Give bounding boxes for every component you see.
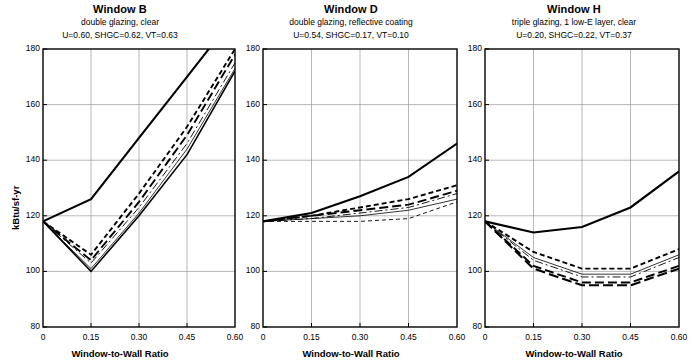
x-axis-title: Window-to-Wall Ratio: [240, 348, 462, 359]
y-tick-label: 140: [458, 154, 482, 164]
plot-area: [485, 49, 679, 327]
y-tick-label: 80: [16, 321, 40, 331]
panel-subtitle-glazing: triple glazing, 1 low-E layer, clear: [462, 17, 686, 27]
y-tick-label: 80: [458, 321, 482, 331]
x-tick-label: 0.15: [74, 332, 108, 342]
x-tick-label: 0.15: [517, 332, 551, 342]
plot-area: [263, 49, 457, 327]
panel-title: Window B: [0, 3, 240, 15]
y-axis-title: kBtu/sf-yr: [10, 186, 21, 230]
y-tick-label: 140: [236, 154, 260, 164]
chart-panel-window-h: Window H triple glazing, 1 low-E layer, …: [462, 0, 686, 364]
x-axis-title: Window-to-Wall Ratio: [462, 348, 686, 359]
y-tick-label: 160: [16, 99, 40, 109]
y-tick-label: 180: [16, 43, 40, 53]
y-tick-label: 180: [236, 43, 260, 53]
plot-area: [43, 49, 235, 327]
y-tick-label: 120: [16, 210, 40, 220]
x-axis-title: Window-to-Wall Ratio: [0, 348, 240, 359]
panel-plot-svg: [42, 48, 236, 328]
x-tick-label: 0.30: [343, 332, 377, 342]
y-tick-label: 120: [458, 210, 482, 220]
panel-subtitle-glazing: double glazing, reflective coating: [240, 17, 462, 27]
panel-title: Window H: [462, 3, 686, 15]
y-tick-label: 160: [458, 99, 482, 109]
y-tick-label: 80: [236, 321, 260, 331]
panel-plot-svg: [484, 48, 680, 328]
y-tick-label: 180: [458, 43, 482, 53]
panel-subtitle-properties: U=0.20, SHGC=0.22, VT=0.37: [462, 30, 686, 40]
y-tick-label: 100: [16, 265, 40, 275]
panel-title: Window D: [240, 3, 462, 15]
panel-subtitle-properties: U=0.60, SHGC=0.62, VT=0.63: [0, 30, 240, 40]
y-tick-label: 100: [236, 265, 260, 275]
panel-plot-svg: [262, 48, 458, 328]
x-tick-label: 0.60: [662, 332, 692, 342]
x-tick-label: 0.45: [614, 332, 648, 342]
x-tick-label: 0.30: [565, 332, 599, 342]
x-tick-label: 0.45: [392, 332, 426, 342]
y-tick-label: 120: [236, 210, 260, 220]
chart-panel-window-d: Window D double glazing, reflective coat…: [240, 0, 462, 364]
x-tick-label: 0: [468, 332, 502, 342]
y-tick-label: 160: [236, 99, 260, 109]
x-tick-label: 0.15: [295, 332, 329, 342]
chart-panel-window-b: Window B double glazing, clear U=0.60, S…: [0, 0, 240, 364]
panel-subtitle-properties: U=0.54, SHGC=0.17, VT=0.10: [240, 30, 462, 40]
y-tick-label: 100: [458, 265, 482, 275]
x-tick-label: 0: [26, 332, 60, 342]
x-tick-label: 0: [246, 332, 280, 342]
x-tick-label: 0.30: [122, 332, 156, 342]
x-tick-label: 0.45: [170, 332, 204, 342]
y-tick-label: 140: [16, 154, 40, 164]
panel-subtitle-glazing: double glazing, clear: [0, 17, 240, 27]
